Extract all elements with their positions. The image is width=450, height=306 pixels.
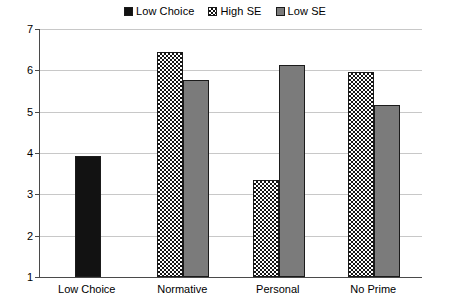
legend-item-low-se: Low SE [276, 6, 327, 17]
bar-group-personal [231, 29, 327, 277]
y-tick-label-4: 4 [27, 148, 33, 159]
x-axis-tick-labels: Low Choice Normative Personal No Prime [39, 283, 421, 303]
chart-legend: Low Choice High SE Low SE [0, 6, 450, 17]
legend-label-high-se: High SE [220, 6, 261, 17]
y-tick-label-5: 5 [27, 106, 33, 117]
y-tick-label-3: 3 [27, 189, 33, 200]
x-tick-label-no-prime: No Prime [350, 283, 396, 295]
y-tick-label-1: 1 [27, 272, 33, 283]
x-tick-label-personal: Personal [256, 283, 299, 295]
y-tick-label-6: 6 [27, 65, 33, 76]
legend-item-high-se: High SE [208, 6, 261, 17]
bar-no-prime-low-se[interactable] [374, 105, 400, 277]
legend-swatch-gray-icon [276, 7, 285, 16]
x-tick-label-low-choice: Low Choice [58, 283, 115, 295]
y-axis-tick-labels: 7 6 5 4 3 2 1 [0, 29, 33, 277]
x-tick-label-normative: Normative [157, 283, 207, 295]
bar-no-prime-high-se[interactable] [348, 72, 374, 277]
y-tick-label-7: 7 [27, 24, 33, 35]
plot-area [39, 29, 422, 278]
bar-personal-low-se[interactable] [279, 65, 305, 277]
legend-label-low-choice: Low Choice [136, 6, 194, 17]
bar-normative-low-se[interactable] [183, 80, 209, 277]
legend-label-low-se: Low SE [288, 6, 327, 17]
y-tick-label-2: 2 [27, 230, 33, 241]
legend-swatch-checkered-icon [208, 7, 217, 16]
bar-low-choice-low-choice[interactable] [75, 156, 101, 277]
bar-group-low-choice [40, 29, 136, 277]
legend-item-low-choice: Low Choice [124, 6, 194, 17]
bar-group-normative [136, 29, 232, 277]
y-tick-1 [35, 277, 40, 278]
bar-personal-high-se[interactable] [253, 180, 279, 277]
legend-swatch-solid-black-icon [124, 7, 133, 16]
bar-normative-high-se[interactable] [157, 52, 183, 277]
bar-group-no-prime [327, 29, 423, 277]
